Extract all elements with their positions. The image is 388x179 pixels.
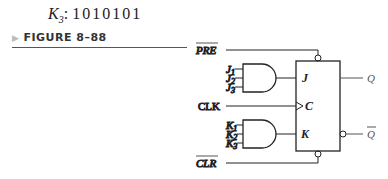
pre-bubble — [315, 55, 321, 61]
pin-c: C — [305, 99, 314, 113]
clr-bubble — [315, 151, 321, 157]
pre-wire — [226, 50, 318, 55]
pin-k: K — [300, 127, 310, 141]
jk-flipflop-diagram: PRE J1 J2 J3 CLK K1 K2 K3 CLR J C K Q Q — [0, 0, 388, 179]
clr-wire — [226, 157, 318, 163]
q-bar-bubble — [340, 131, 346, 137]
q-bar-label: Q — [367, 128, 375, 140]
q-label: Q — [367, 72, 375, 84]
clock-triangle-icon — [296, 102, 303, 110]
clk-label: CLK — [198, 100, 220, 112]
pin-j: J — [301, 71, 309, 85]
and-gate-k — [243, 120, 276, 148]
pre-label: PRE — [195, 44, 216, 56]
clr-label: CLR — [196, 157, 216, 169]
and-gate-j — [243, 64, 276, 92]
